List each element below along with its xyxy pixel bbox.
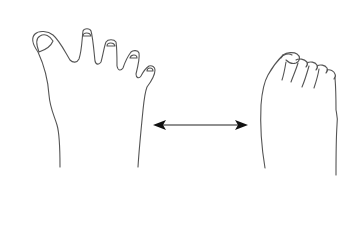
big-toe-nail (37, 35, 53, 52)
right-fourth-toe (314, 65, 327, 88)
right-fifth-toe (327, 70, 335, 79)
diagram-canvas: Splayed toes foot Bidirectional arrow Co… (0, 0, 362, 232)
right-first-toe-line (282, 62, 286, 80)
fourth-toe-nail (130, 55, 137, 58)
third-toe-nail (107, 43, 115, 46)
left-foot-outline (33, 29, 155, 167)
double-arrow (153, 120, 248, 130)
right-foot-left-side (261, 55, 283, 168)
left-foot-drawing (33, 29, 155, 167)
fifth-toe-nail (147, 68, 153, 71)
right-foot-drawing (261, 53, 338, 175)
second-toe-nail (83, 33, 91, 36)
right-foot-right-side (335, 78, 337, 175)
